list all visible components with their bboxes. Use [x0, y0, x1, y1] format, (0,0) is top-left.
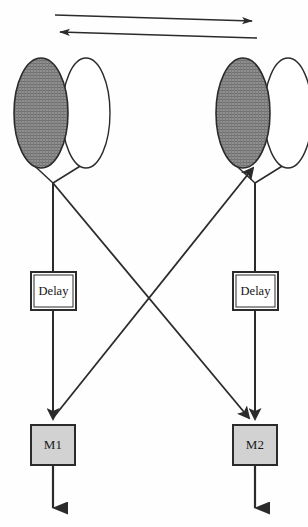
m2-label: M2 [246, 437, 264, 452]
leftward-arrow [60, 32, 257, 38]
top-arrow-pair [55, 15, 257, 38]
diagonal-left-to-m2 [53, 183, 249, 418]
delay-box-right[interactable]: Delay [233, 272, 278, 310]
left-white-ellipse[interactable] [62, 58, 110, 168]
right-shaded-ellipse[interactable] [216, 58, 270, 168]
memory-box-m2[interactable]: M2 [233, 425, 277, 465]
system-block-diagram: Delay Delay M1 M2 [0, 0, 308, 527]
left-node[interactable] [14, 58, 110, 168]
output-arrows [53, 465, 255, 508]
memory-box-m1[interactable]: M1 [31, 425, 75, 465]
rightward-arrow [55, 15, 252, 21]
left-shaded-ellipse[interactable] [14, 58, 68, 168]
diagonal-m1-to-right-node [53, 168, 253, 418]
delay-box-left[interactable]: Delay [31, 272, 76, 310]
delay-right-label: Delay [241, 284, 272, 298]
delay-left-label: Delay [39, 284, 70, 298]
right-node[interactable] [216, 58, 308, 168]
m1-label: M1 [44, 437, 62, 452]
